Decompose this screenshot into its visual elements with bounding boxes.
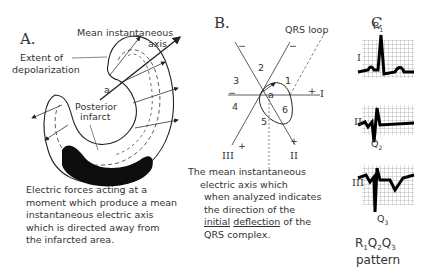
underlined-initial: initial (204, 216, 230, 227)
lead-iii-strip-label: III (352, 177, 364, 188)
qrs-loop-label: QRS loop (285, 24, 328, 35)
p-q: Q (382, 236, 391, 250)
panel-a-caption: Electric forces acting at a moment which… (26, 184, 211, 247)
caption-line: Electric forces acting at a (26, 184, 211, 197)
caption-line: The mean instantaneous (188, 166, 373, 179)
panel-b-label: B. (214, 14, 230, 32)
lead-iii-label: III (222, 150, 234, 161)
point-a-label-b: a (268, 89, 274, 100)
extent-label-1: Extent of (20, 52, 63, 63)
axis-label: axis (148, 38, 167, 49)
r-letter: R (373, 20, 380, 31)
caption-line: which is directed away from (26, 222, 211, 235)
lead-ii-strip-label: II (354, 116, 362, 127)
sector-3: 3 (233, 75, 239, 86)
q-sub: 3 (384, 219, 388, 226)
panel-a-label: A. (20, 30, 36, 48)
q3-label: Q3 (377, 213, 388, 226)
lead-i-plus: + (308, 85, 316, 96)
lead-ii-minus: − (238, 40, 246, 51)
lead-iii-minus: − (289, 40, 297, 51)
panel-b-caption: The mean instantaneous electric axis whi… (188, 166, 373, 241)
lead-i-label: I (320, 88, 324, 99)
mean-axis-label: Mean instantaneous (77, 27, 173, 38)
lead-i-minus: − (228, 87, 236, 98)
infarct-label: infarct (80, 111, 110, 122)
p-q3-sub: 3 (391, 244, 395, 252)
q-sub: 2 (378, 144, 382, 151)
lead-iii-plus: + (238, 140, 246, 151)
caption-line: initial deflection of the (188, 216, 373, 229)
caption-line: instantaneous electric axis (26, 209, 211, 222)
sector-4: 4 (232, 101, 238, 112)
underlined-deflection: deflection (233, 216, 280, 227)
r1-label: R1 (373, 20, 383, 33)
caption-line: when analyzed indicates (188, 191, 373, 204)
extent-label-2: depolarization (12, 64, 80, 75)
caption-line: the direction of the (188, 204, 373, 217)
lead-ii-label: II (290, 150, 298, 161)
point-a-label: a (104, 84, 110, 95)
p-q: Q (368, 236, 377, 250)
caption-line: QRS complex. (188, 229, 373, 242)
caption-rest: of the (280, 216, 311, 227)
caption-line: moment which produce a mean (26, 197, 211, 210)
sector-6: 6 (282, 104, 288, 115)
r-sub: 1 (380, 26, 384, 33)
sector-2: 2 (258, 62, 264, 73)
q2-label: Q2 (371, 138, 382, 151)
lead-ii-plus: + (290, 135, 298, 146)
lead-i-strip-label: I (357, 52, 361, 63)
sector-1: 1 (285, 75, 291, 86)
sector-5: 5 (261, 116, 267, 127)
caption-line: the infarcted area. (26, 234, 211, 247)
pattern-label: R1Q2Q3 (355, 236, 396, 252)
pattern-word: pattern (356, 253, 400, 267)
caption-line: electric axis which (188, 179, 373, 192)
